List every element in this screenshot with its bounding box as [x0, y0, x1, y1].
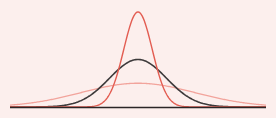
- chart-canvas: [0, 0, 276, 118]
- normal-distribution-chart: [0, 0, 276, 118]
